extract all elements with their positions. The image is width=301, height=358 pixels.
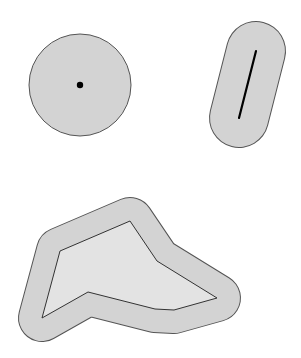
point-feature [77,82,83,88]
buffer-diagram [0,0,301,358]
polygon-buffer [42,221,217,318]
line-buffer [239,51,256,118]
point-buffer [29,34,131,136]
